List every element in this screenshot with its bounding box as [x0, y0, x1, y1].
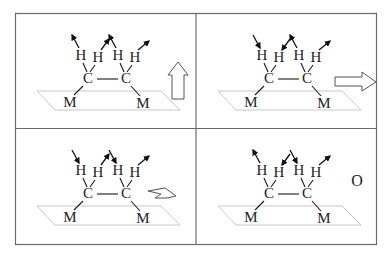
up-arrow-icon: [168, 62, 188, 99]
metal-atom: M: [136, 95, 149, 111]
metal-atom: M: [136, 210, 149, 226]
carbon-atom: C: [302, 70, 312, 86]
panel-2: HHHHCCMM: [218, 35, 376, 111]
carbon-atom: C: [264, 70, 274, 86]
motion-arrow-icon: [138, 156, 149, 165]
metal-atom: M: [63, 94, 76, 110]
carbon-atom: C: [121, 185, 131, 201]
metal-atom: M: [317, 95, 330, 111]
motion-arrow-icon: [101, 39, 109, 50]
diagram-canvas: HHHHCCMM HHHHCCMM HHHHCCMM HHHHCCMMO: [0, 0, 392, 258]
panel-1: HHHHCCMM: [37, 35, 188, 111]
hydrogen-atom: H: [294, 162, 305, 178]
hydrogen-atom: H: [113, 162, 124, 178]
right-arrow-icon: [335, 72, 376, 91]
mode-label: O: [351, 172, 363, 189]
carbon-atom: C: [302, 185, 312, 201]
ethylene-vibration-diagram: HHHHCCMM HHHHCCMM HHHHCCMM HHHHCCMMO: [0, 0, 392, 258]
hydrogen-atom: H: [130, 164, 141, 180]
metal-atom: M: [63, 209, 76, 225]
metal-surface-plane: [37, 91, 180, 110]
motion-arrow-icon: [138, 41, 149, 50]
hydrogen-atom: H: [130, 49, 141, 65]
metal-atom: M: [317, 210, 330, 226]
hydrogen-atom: H: [274, 164, 285, 180]
metal-atom: M: [244, 209, 257, 225]
metal-surface-plane: [218, 91, 361, 110]
motion-arrow-icon: [282, 39, 290, 50]
hydrogen-atom: H: [311, 49, 322, 65]
hydrogen-atom: H: [257, 47, 268, 63]
hydrogen-atom: H: [93, 164, 104, 180]
hydrogen-atom: H: [93, 49, 104, 65]
metal-surface-plane: [37, 206, 180, 225]
hydrogen-atom: H: [257, 162, 268, 178]
hydrogen-atom: H: [76, 162, 87, 178]
metal-atom: M: [244, 94, 257, 110]
carbon-atom: C: [83, 70, 93, 86]
motion-arrow-icon: [319, 156, 330, 165]
metal-surface-plane: [218, 206, 361, 225]
hydrogen-atom: H: [294, 47, 305, 63]
carbon-atom: C: [264, 185, 274, 201]
panel-4: HHHHCCMMO: [218, 150, 363, 226]
hydrogen-atom: H: [311, 164, 322, 180]
carbon-atom: C: [121, 70, 131, 86]
carbon-atom: C: [83, 185, 93, 201]
rotate-arrow-icon: [148, 188, 176, 198]
hydrogen-atom: H: [274, 49, 285, 65]
hydrogen-atom: H: [113, 47, 124, 63]
hydrogen-atom: H: [76, 47, 87, 63]
motion-arrow-icon: [101, 154, 109, 165]
motion-arrow-icon: [282, 154, 290, 165]
panel-3: HHHHCCMM: [37, 150, 180, 226]
motion-arrow-icon: [319, 41, 330, 50]
